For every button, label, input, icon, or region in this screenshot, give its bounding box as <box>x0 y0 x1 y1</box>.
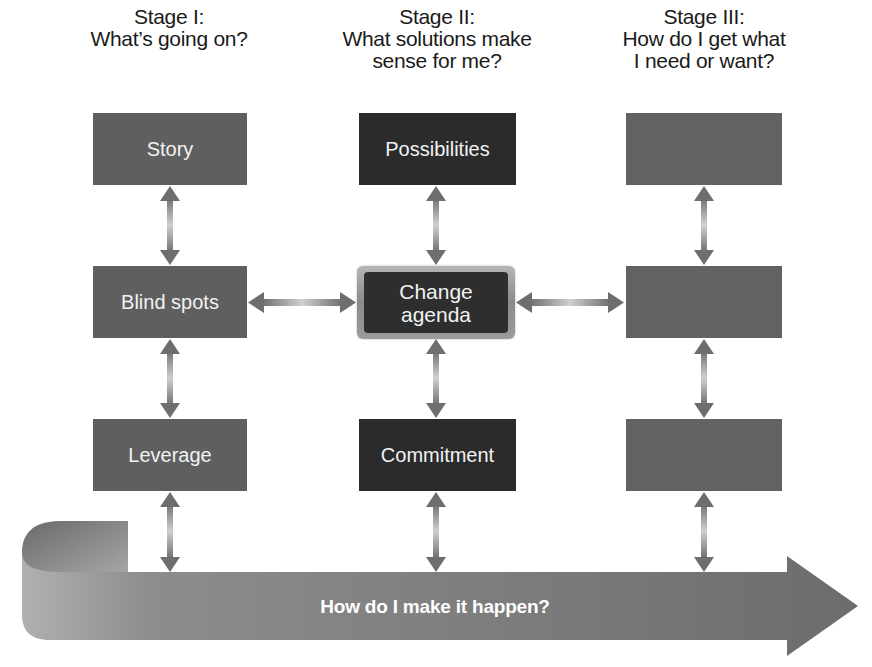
arrow-stage3-row3-flow <box>694 492 714 572</box>
arrow-blindspots-change <box>248 292 356 313</box>
arrow-possibilities-change <box>426 186 446 265</box>
arrow-change-stage3 <box>516 292 624 313</box>
arrow-leverage-flow <box>160 492 180 572</box>
arrow-commitment-flow <box>426 492 446 572</box>
flow-banner-label: How do I make it happen? <box>230 596 640 618</box>
arrow-change-commitment <box>426 339 446 418</box>
commitment-label: Commitment <box>381 444 494 467</box>
arrow-story-blindspots <box>160 186 180 265</box>
stage3-box-row1[interactable] <box>626 113 782 185</box>
blind-spots-label: Blind spots <box>121 291 219 314</box>
arrow-blindspots-leverage <box>160 339 180 418</box>
stage3-box-row3[interactable] <box>626 419 782 491</box>
change-agenda-box[interactable]: Change agenda <box>357 266 515 339</box>
leverage-label: Leverage <box>128 444 211 467</box>
change-agenda-label-line-1: Change <box>399 280 473 303</box>
story-box[interactable]: Story <box>93 113 247 185</box>
change-agenda-label-line-2: agenda <box>401 303 471 326</box>
commitment-box[interactable]: Commitment <box>359 419 516 491</box>
leverage-box[interactable]: Leverage <box>93 419 247 491</box>
possibilities-label: Possibilities <box>385 138 489 161</box>
stage3-box-row2[interactable] <box>626 266 782 338</box>
story-label: Story <box>147 138 194 161</box>
flow-banner-arrow <box>22 521 858 656</box>
arrow-stage3-row2-row3 <box>694 339 714 418</box>
arrow-stage3-row1-row2 <box>694 186 714 265</box>
possibilities-box[interactable]: Possibilities <box>359 113 516 185</box>
blind-spots-box[interactable]: Blind spots <box>93 266 247 338</box>
change-agenda-inner: Change agenda <box>364 272 508 333</box>
